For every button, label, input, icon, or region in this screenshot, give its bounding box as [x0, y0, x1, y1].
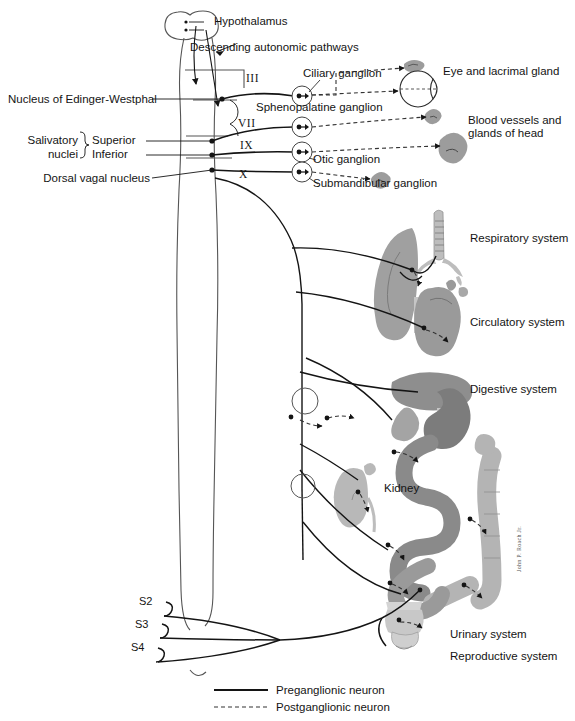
label-sphenopalatine-ganglion: Sphenopalatine ganglion — [256, 100, 383, 114]
label-ciliary-ganglion: Ciliary ganglion — [303, 66, 382, 80]
label-blood-vessels-line2: glands of head — [468, 126, 543, 140]
legend-lines — [214, 690, 268, 707]
colon-icon — [432, 434, 500, 603]
heart-icon — [414, 280, 468, 356]
label-reproductive-system: Reproductive system — [450, 649, 557, 663]
cranial-nerve-brace — [230, 100, 238, 136]
label-digestive-system: Digestive system — [470, 382, 557, 396]
label-eye-and-lacrimal-gland: Eye and lacrimal gland — [443, 64, 559, 78]
plexus-circles — [291, 388, 318, 498]
label-hypothalamus: Hypothalamus — [214, 14, 288, 28]
label-salivatory-nuclei: nuclei — [0, 147, 78, 161]
label-cranial-nerve-X: X — [239, 168, 248, 180]
label-cranial-nerve-VII: VII — [238, 117, 255, 129]
kidney-icon — [334, 463, 376, 532]
label-edinger-westphal: Nucleus of Edinger-Westphal — [8, 92, 150, 106]
organ-illustrations — [334, 60, 500, 649]
head-gland-parotid-icon — [439, 133, 468, 164]
label-submandibular-ganglion: Submandibular ganglion — [313, 176, 437, 190]
figure-canvas: Hypothalamus Descending autonomic pathwa… — [0, 0, 575, 721]
label-dorsal-vagal-nucleus: Dorsal vagal nucleus — [4, 171, 150, 185]
label-sacral-S3: S3 — [135, 618, 148, 630]
label-cranial-nerve-III: III — [246, 72, 259, 84]
label-otic-ganglion: Otic ganglion — [313, 152, 380, 166]
lung-icon — [374, 228, 418, 340]
label-kidney: Kidney — [384, 481, 419, 495]
label-respiratory-system: Respiratory system — [470, 231, 568, 245]
trachea-icon — [414, 210, 463, 286]
bladder-pelvis-icon — [385, 602, 424, 649]
label-descending-pathways: Descending autonomic pathways — [190, 40, 359, 54]
legend-postganglionic-label: Postganglionic neuron — [276, 701, 390, 713]
legend-preganglionic-label: Preganglionic neuron — [276, 684, 385, 696]
lacrimal-gland-icon — [404, 60, 425, 72]
label-blood-vessels-line1: Blood vessels and — [468, 113, 561, 127]
label-urinary-system: Urinary system — [450, 627, 527, 641]
label-superior: Superior — [92, 133, 135, 147]
cns-outline — [165, 11, 244, 676]
label-cranial-nerve-IX: IX — [240, 139, 253, 151]
sacral-preganglionic-fibres — [156, 590, 420, 662]
eye-icon — [400, 71, 437, 107]
label-sacral-S2: S2 — [139, 595, 152, 607]
head-gland-upper-icon — [424, 109, 441, 124]
label-sacral-S4: S4 — [131, 641, 144, 653]
label-inferior: Inferior — [92, 147, 128, 161]
label-circulatory-system: Circulatory system — [470, 315, 565, 329]
artist-signature: John P. Roach Jr. — [516, 526, 522, 572]
label-salivatory: Salivatory — [0, 133, 78, 147]
